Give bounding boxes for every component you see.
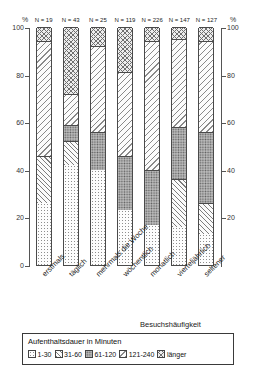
legend-item[interactable]: länger xyxy=(157,350,186,358)
sample-size-label: N = 127 xyxy=(190,17,223,23)
stacked-bar[interactable] xyxy=(171,28,187,266)
bar-segment[interactable] xyxy=(172,227,186,265)
bar-segment[interactable] xyxy=(172,179,186,227)
bar-segment[interactable] xyxy=(145,41,159,170)
bar-segment[interactable] xyxy=(64,27,78,94)
bar-segment[interactable] xyxy=(145,170,159,225)
bar-column[interactable] xyxy=(117,28,133,266)
y-tick-mark-right-80 xyxy=(222,76,226,77)
stacked-bar[interactable] xyxy=(63,28,79,266)
y-axis-right-line xyxy=(221,28,222,267)
y-tick-mark-right-20 xyxy=(222,218,226,219)
legend-swatch xyxy=(157,350,165,358)
y-tick-label-left-0: 0 xyxy=(8,262,24,269)
y-axis-unit-right: % xyxy=(230,16,236,23)
y-tick-mark-left-100 xyxy=(25,28,29,29)
bar-segment[interactable] xyxy=(199,132,213,203)
bar-segment[interactable] xyxy=(172,39,186,127)
y-tick-label-left-40: 40 xyxy=(8,167,24,174)
bar-segment[interactable] xyxy=(118,27,132,72)
stacked-bar[interactable] xyxy=(36,28,52,266)
y-tick-label-right-100: 100 xyxy=(227,24,243,31)
bar-column[interactable] xyxy=(171,28,187,266)
legend-item[interactable]: 1-30 xyxy=(28,350,52,358)
stacked-bar-chart: % % 02020404060608080100100 N = 19N = 43… xyxy=(0,0,256,375)
bar-segment[interactable] xyxy=(199,41,213,131)
bar-column[interactable] xyxy=(90,28,106,266)
legend-item[interactable]: 61-120 xyxy=(85,350,116,358)
x-axis-title: Besuchshäufigkeit xyxy=(140,320,201,329)
y-tick-mark-right-40 xyxy=(222,171,226,172)
legend-swatch xyxy=(28,350,36,358)
bar-segment[interactable] xyxy=(145,27,159,41)
bar-column[interactable] xyxy=(198,28,214,266)
legend: Aufenthaltsdauer in Minuten 1-3031-6061-… xyxy=(22,333,234,365)
legend-swatch xyxy=(85,350,93,358)
legend-title: Aufenthaltsdauer in Minuten xyxy=(28,337,121,346)
legend-swatch xyxy=(119,350,127,358)
y-tick-label-right-20: 20 xyxy=(227,214,243,221)
bar-segment[interactable] xyxy=(91,170,105,265)
y-tick-mark-right-100 xyxy=(222,28,226,29)
bar-segment[interactable] xyxy=(172,127,186,179)
legend-label: 31-60 xyxy=(64,351,82,358)
bar-segment[interactable] xyxy=(172,27,186,39)
y-tick-mark-left-40 xyxy=(25,171,29,172)
legend-items: 1-3031-6061-120121-240länger xyxy=(28,350,231,358)
y-tick-label-left-20: 20 xyxy=(8,214,24,221)
bar-segment[interactable] xyxy=(91,27,105,46)
y-tick-label-right-80: 80 xyxy=(227,72,243,79)
bar-segment[interactable] xyxy=(199,27,213,41)
legend-label: 61-120 xyxy=(94,351,116,358)
y-tick-label-left-60: 60 xyxy=(8,119,24,126)
y-tick-mark-left-60 xyxy=(25,123,29,124)
y-tick-label-right-40: 40 xyxy=(227,167,243,174)
legend-label: 121-240 xyxy=(129,351,155,358)
bar-segment[interactable] xyxy=(199,203,213,234)
bar-column[interactable] xyxy=(63,28,79,266)
bar-segment[interactable] xyxy=(118,156,132,211)
bar-segment[interactable] xyxy=(64,94,78,125)
legend-item[interactable]: 31-60 xyxy=(55,350,82,358)
bar-segment[interactable] xyxy=(37,41,51,155)
bar-segment[interactable] xyxy=(64,165,78,265)
bar-segment[interactable] xyxy=(118,72,132,155)
stacked-bar[interactable] xyxy=(90,28,106,266)
stacked-bar[interactable] xyxy=(198,28,214,266)
y-tick-mark-left-80 xyxy=(25,76,29,77)
bar-segment[interactable] xyxy=(64,141,78,165)
bar-segment[interactable] xyxy=(37,156,51,204)
stacked-bar[interactable] xyxy=(117,28,133,266)
y-tick-mark-right-60 xyxy=(222,123,226,124)
legend-item[interactable]: 121-240 xyxy=(119,350,154,358)
y-tick-label-left-80: 80 xyxy=(8,72,24,79)
legend-swatch xyxy=(55,350,63,358)
y-tick-mark-left-20 xyxy=(25,218,29,219)
bar-segment[interactable] xyxy=(37,27,51,41)
bar-segment[interactable] xyxy=(91,46,105,132)
y-tick-label-right-60: 60 xyxy=(227,119,243,126)
bar-column[interactable] xyxy=(36,28,52,266)
y-tick-label-left-100: 100 xyxy=(8,24,24,31)
plot-area xyxy=(30,28,220,266)
y-tick-mark-left-0 xyxy=(25,266,29,267)
legend-label: 1-30 xyxy=(38,351,52,358)
bar-segment[interactable] xyxy=(37,203,51,265)
bar-segment[interactable] xyxy=(91,132,105,170)
legend-label: länger xyxy=(167,351,186,358)
bar-segment[interactable] xyxy=(64,125,78,142)
